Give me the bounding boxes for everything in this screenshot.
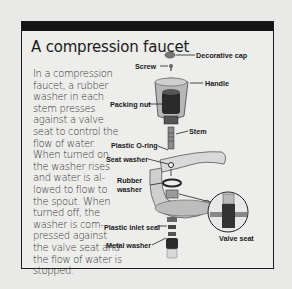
label-seat-washer: Seat washer <box>106 155 148 164</box>
decorative-cap-icon <box>165 52 175 58</box>
screw-icon <box>169 64 173 71</box>
label-screw: Screw <box>135 62 156 71</box>
label-decorative-cap: Decorative cap <box>196 51 247 60</box>
packing-nut-icon <box>164 116 178 124</box>
plastic-inlet-seal-icon <box>167 217 177 229</box>
label-metal-washer: Metal washer <box>106 241 151 250</box>
label-plastic-inlet-seal: Plastic inlet seal <box>104 223 160 232</box>
rubber-washer-icon <box>163 180 181 187</box>
handle-icon <box>155 78 188 119</box>
label-valve-seat: Valve seat <box>219 234 254 243</box>
label-plastic-o-ring: Plastic O-ring <box>111 141 158 150</box>
valve-seat-insert-icon <box>166 190 178 198</box>
valve-seat-magnifier-icon <box>208 192 248 232</box>
label-rubber-washer-line1: Rubber <box>117 176 142 185</box>
label-handle: Handle <box>205 79 229 88</box>
label-packing-nut: Packing nut <box>110 100 151 109</box>
label-rubber-washer-line2: washer <box>117 185 142 194</box>
stem-icon <box>168 127 174 149</box>
seat-washer-icon <box>169 163 174 168</box>
label-stem: Stem <box>189 127 207 136</box>
metal-washer-icon <box>166 232 178 258</box>
